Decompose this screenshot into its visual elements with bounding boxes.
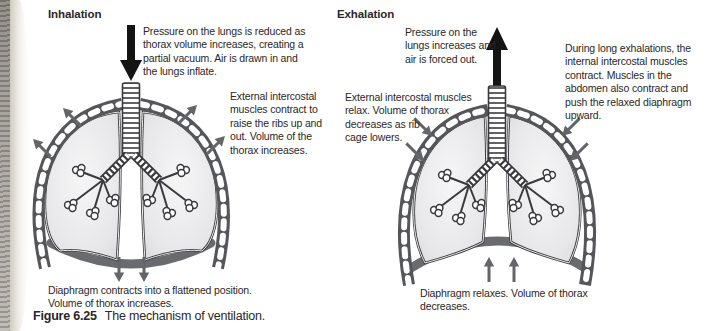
textbook-figure-page: { "figure": { "caption_label": "Figure 6… — [0, 0, 717, 331]
inhalation-title: Inhalation — [48, 8, 101, 20]
air-in-arrow — [120, 25, 142, 81]
diaphragm-up-arrows — [484, 257, 519, 282]
exhalation-internal-intercostal-note: During long exhalations, the internal in… — [565, 42, 715, 122]
figure-caption-text: The mechanism of ventilation. — [105, 309, 265, 323]
inhalation-intercostal-note: External intercostal muscles contract to… — [230, 90, 334, 157]
scanned-page-edge — [0, 0, 10, 331]
inhalation-diaphragm-note: Diaphragm contracts into a flattened pos… — [48, 284, 308, 311]
figure-caption-label: Figure 6.25 — [33, 309, 97, 323]
exhalation-pressure-note: Pressure on the lungs increases and air … — [405, 26, 505, 66]
exhalation-intercostal-note: External intercostal muscles relax. Volu… — [345, 91, 485, 145]
exhalation-diaphragm-note: Diaphragm relaxes. Volume of thorax decr… — [420, 287, 630, 314]
figure-caption: Figure 6.25The mechanism of ventilation. — [33, 309, 265, 323]
inhalation-pressure-note: Pressure on the lungs is reduced as thor… — [143, 25, 307, 79]
exhalation-title: Exhalation — [337, 8, 394, 20]
